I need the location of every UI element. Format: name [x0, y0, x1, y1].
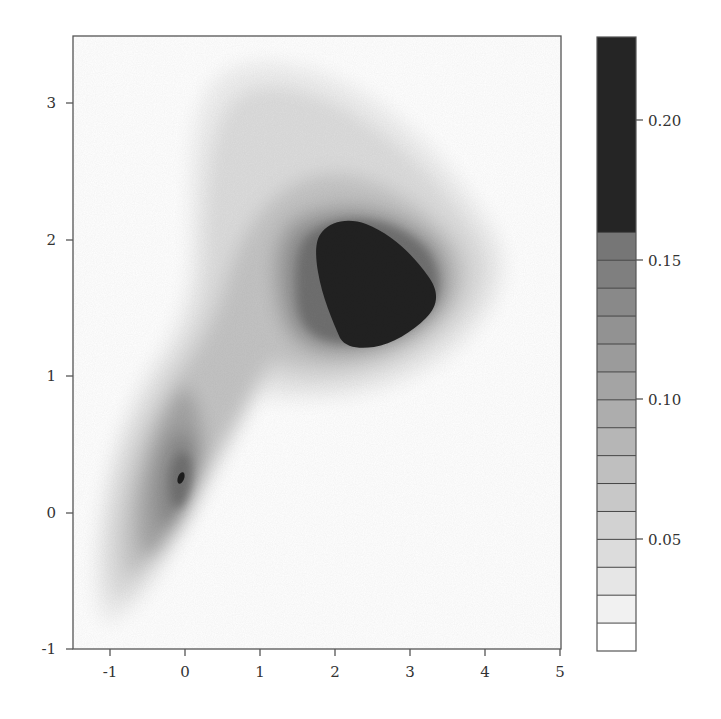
y-axis: -1 0 1 2 3 [41, 94, 73, 658]
colorbar-band [597, 511, 636, 539]
colorbar-band [597, 623, 636, 651]
colorbar-band [597, 288, 636, 316]
colorbar-band [597, 260, 636, 288]
plot-area [73, 36, 561, 649]
colorbar-band [597, 595, 636, 623]
colorbar-band [597, 37, 636, 232]
colorbar-band [597, 316, 636, 344]
colorbar-band [597, 428, 636, 456]
y-tick-label: 1 [46, 367, 56, 385]
colorbar-bands [597, 37, 636, 651]
colorbar-band [597, 400, 636, 428]
x-tick-label: 1 [255, 663, 265, 681]
contour-chart: -1 0 1 2 3 4 5 -1 0 1 2 3 0.05 0.10 0.15… [0, 0, 721, 719]
colorbar-band [597, 232, 636, 260]
colorbar-band [597, 456, 636, 484]
x-tick-label: 3 [405, 663, 415, 681]
colorbar-band [597, 484, 636, 512]
x-tick-label: -1 [103, 663, 118, 681]
x-tick-label: 5 [555, 663, 565, 681]
colorbar-tick-label: 0.20 [648, 112, 681, 130]
colorbar: 0.05 0.10 0.15 0.20 [597, 37, 681, 651]
colorbar-band [597, 344, 636, 372]
x-tick-label: 2 [330, 663, 340, 681]
y-tick-label: 2 [46, 231, 56, 249]
colorbar-tick-label: 0.15 [648, 252, 681, 270]
y-tick-label: 0 [46, 504, 56, 522]
x-tick-label: 4 [480, 663, 490, 681]
y-tick-label: 3 [46, 94, 56, 112]
colorbar-band [597, 567, 636, 595]
colorbar-tick-label: 0.05 [648, 531, 681, 549]
colorbar-band [597, 372, 636, 400]
x-tick-label: 0 [180, 663, 190, 681]
colorbar-band [597, 539, 636, 567]
colorbar-tick-label: 0.10 [648, 391, 681, 409]
x-axis: -1 0 1 2 3 4 5 [103, 649, 565, 681]
y-tick-label: -1 [41, 640, 56, 658]
